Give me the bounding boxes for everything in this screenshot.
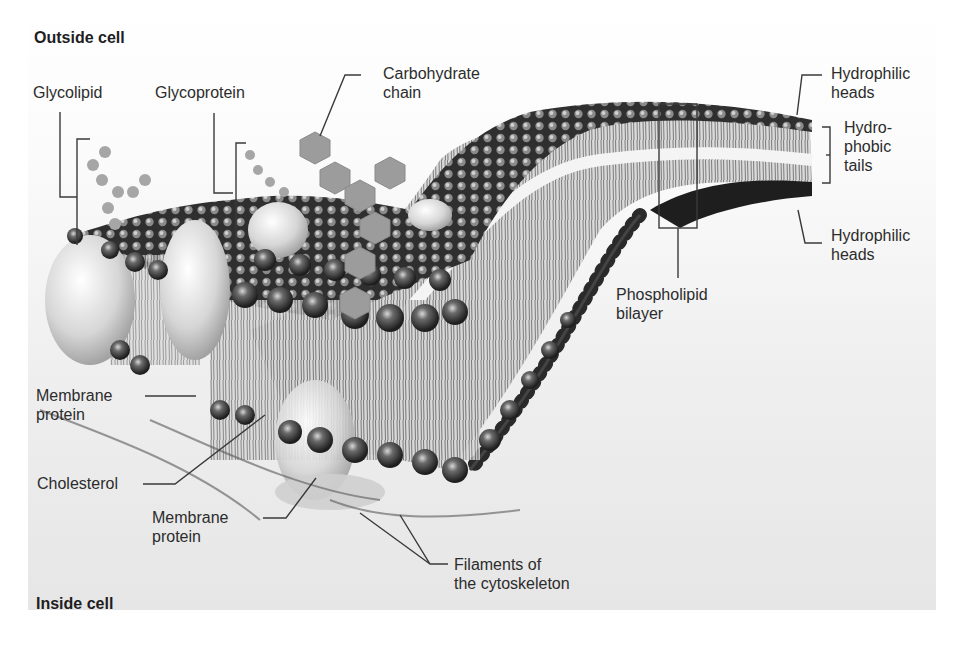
phospholipid-bilayer-label: Phospholipid bilayer	[616, 285, 708, 323]
hydrophobic-tails-label: Hydro- phobic tails	[844, 118, 892, 175]
outside-cell-label: Outside cell	[34, 28, 125, 47]
membrane-protein-bottom-label: Membrane protein	[152, 508, 228, 546]
glycoprotein-bulb	[248, 202, 308, 258]
carbohydrate-chain-label: Carbohydrate chain	[383, 64, 480, 102]
hydrophilic-heads-bottom-label: Hydrophilic heads	[831, 226, 910, 264]
cell-membrane-illustration	[0, 0, 965, 645]
cytoskeleton-filaments-label: Filaments of the cytoskeleton	[454, 555, 570, 593]
glycoprotein-sugars	[245, 150, 289, 197]
glycolipid-label: Glycolipid	[33, 83, 102, 102]
cholesterol-label: Cholesterol	[37, 474, 118, 493]
glycoprotein-label: Glycoprotein	[155, 83, 245, 102]
hydrophilic-heads-top-label: Hydrophilic heads	[831, 64, 910, 102]
inside-cell-label: Inside cell	[36, 594, 113, 613]
bottom-head-layer	[650, 180, 812, 228]
membrane-protein-left-label: Membrane protein	[36, 386, 112, 424]
